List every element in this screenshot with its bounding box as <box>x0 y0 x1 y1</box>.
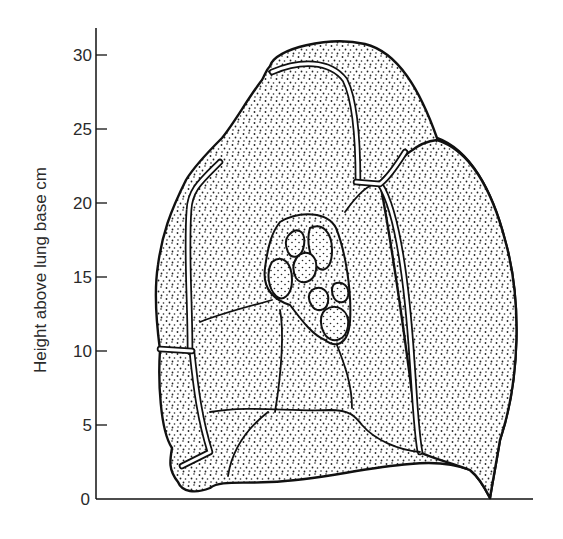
node-5 <box>309 288 328 310</box>
tick-label-0: 0 <box>81 490 90 509</box>
tick-label-20: 20 <box>73 194 92 213</box>
node-7 <box>321 307 348 340</box>
node-4 <box>269 259 292 298</box>
tick-label-10: 10 <box>73 342 92 361</box>
tick-label-5: 5 <box>83 416 92 435</box>
node-6 <box>332 283 349 303</box>
y-axis-title: Height above lung base cm <box>31 167 50 373</box>
tick-label-15: 15 <box>73 268 92 287</box>
node-3 <box>294 253 317 282</box>
lung-illustration <box>156 41 517 498</box>
y-ticks <box>96 55 107 425</box>
lung-height-diagram: 0 5 10 15 20 25 30 Height above lung bas… <box>0 0 563 539</box>
tick-label-30: 30 <box>73 46 92 65</box>
tick-label-25: 25 <box>73 120 92 139</box>
